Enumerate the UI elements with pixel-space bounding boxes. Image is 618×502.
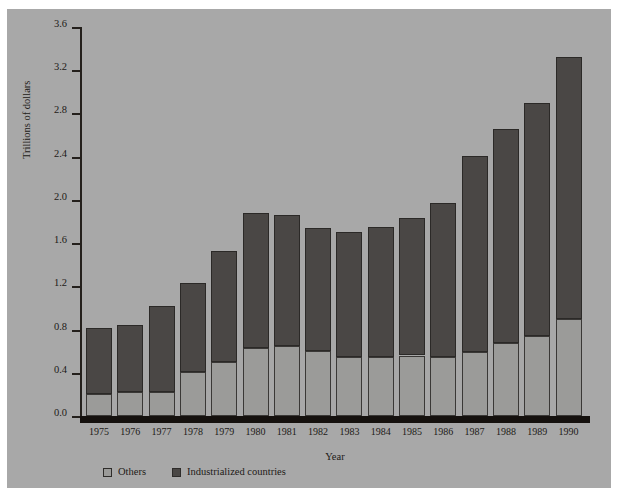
y-axis-tick: 1.6 [72,243,81,245]
y-axis-tick-label: 2.4 [54,149,67,160]
bar-segment-industrialized [462,156,488,353]
bar-segment-others [243,348,269,416]
y-axis-tick-label: 1.6 [54,235,67,246]
bar-segment-others [556,319,582,416]
x-axis-tick-label: 1990 [547,427,591,437]
bar-group [180,283,206,416]
bar-segment-industrialized [86,328,112,394]
y-axis-tick-label: 2.8 [54,105,67,116]
bar-segment-industrialized [336,232,362,356]
y-axis-tick: 0.4 [72,373,81,375]
y-axis-tick: 3.2 [72,70,81,72]
bar-segment-others [399,356,425,417]
plot-area: 0.00.40.81.21.62.02.42.83.23.6 197519761… [80,27,590,433]
x-axis-baseline [80,416,590,423]
y-axis-tick-label: 1.2 [54,278,67,289]
legend-swatch-icon [172,468,181,477]
bar-segment-others [493,343,519,416]
bar-group [493,129,519,416]
bar-segment-others [462,352,488,416]
y-axis-tick: 1.2 [72,286,81,288]
y-axis-line [80,27,82,416]
bar-segment-industrialized [524,103,550,336]
bar-segment-industrialized [149,306,175,392]
bar-group [399,218,425,416]
bar-segment-industrialized [430,203,456,356]
bar-segment-industrialized [305,228,331,351]
bar-segment-others [368,357,394,416]
bar-group [556,57,582,416]
legend-swatch-icon [103,468,112,477]
bar-group [336,232,362,416]
y-axis-tick-label: 0.4 [54,365,67,376]
bar-segment-others [430,357,456,416]
chart-legend: OthersIndustrialized countries [103,467,286,478]
bar-group [368,227,394,416]
y-axis-tick-label: 2.0 [54,192,67,203]
bar-segment-industrialized [117,325,143,392]
bar-group [305,228,331,416]
bar-segment-others [524,336,550,416]
bar-group [149,306,175,416]
y-axis-tick: 2.8 [72,113,81,115]
bar-segment-others [274,346,300,416]
bar-group [86,328,112,416]
y-axis-tick: 3.6 [72,27,81,29]
bar-group [462,156,488,416]
bar-segment-others [180,372,206,416]
bar-segment-others [117,392,143,416]
y-axis-tick-label: 0.0 [54,408,67,419]
bar-segment-industrialized [243,213,269,348]
bar-segment-others [211,362,237,416]
y-axis-tick: 2.4 [72,157,81,159]
legend-entry: Others [103,467,146,478]
legend-entry: Industrialized countries [172,467,286,478]
bar-segment-industrialized [211,251,237,362]
bar-segment-industrialized [399,218,425,355]
y-axis-tick-label: 3.6 [54,19,67,30]
bar-group [243,213,269,416]
bar-segment-others [149,392,175,416]
bar-segment-industrialized [368,227,394,357]
bar-segment-industrialized [493,129,519,343]
y-axis-tick-label: 0.8 [54,322,67,333]
y-axis-tick: 0.8 [72,330,81,332]
x-axis-title: Year [80,451,590,462]
bar-segment-industrialized [274,215,300,346]
bar-segment-others [336,357,362,416]
legend-label: Industrialized countries [187,467,286,478]
bar-group [524,103,550,416]
y-axis-tick: 2.0 [72,200,81,202]
bar-segment-others [305,351,331,416]
chart-figure: Trillions of dollars 0.00.40.81.21.62.02… [7,9,611,488]
legend-label: Others [118,467,146,478]
bar-segment-industrialized [180,283,206,372]
bar-group [211,251,237,416]
y-axis-tick-label: 3.2 [54,62,67,73]
y-axis-title: Trillions of dollars [21,81,32,159]
bar-group [117,325,143,416]
bar-group [430,203,456,416]
bar-series-container [84,27,590,416]
bar-group [274,215,300,416]
bar-segment-industrialized [556,57,582,318]
bar-segment-others [86,394,112,416]
